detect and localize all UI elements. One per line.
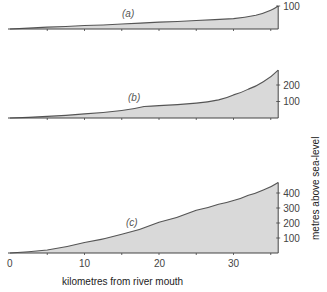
panel-label: (c) — [126, 217, 138, 228]
x-tick-20: 20 — [154, 258, 166, 269]
panel-label: (a) — [122, 8, 134, 19]
x-axis-title: kilometres from river mouth — [62, 276, 183, 287]
panel-label: (b) — [128, 92, 140, 103]
river-profiles-chart: 100(a)100200(b)100200300400(c) 0 10 20 3… — [0, 0, 327, 292]
profile-panel-a: 100(a) — [8, 1, 300, 32]
x-tick-30: 30 — [228, 258, 240, 269]
x-tick-0: 0 — [7, 258, 13, 269]
profile-panel-b: 100200(b) — [8, 70, 300, 120]
profile-area — [10, 183, 278, 254]
y-tick-label: 100 — [283, 233, 300, 244]
y-tick-label: 400 — [283, 188, 300, 199]
y-tick-label: 100 — [283, 1, 300, 12]
y-axis-title: metres above sea-level — [310, 137, 321, 240]
y-tick-label: 100 — [283, 96, 300, 107]
x-tick-10: 10 — [79, 258, 91, 269]
y-tick-label: 200 — [283, 80, 300, 91]
profile-panel-c: 100200300400(c) — [8, 183, 300, 256]
y-tick-label: 300 — [283, 203, 300, 214]
profile-area — [10, 6, 278, 29]
y-tick-label: 200 — [283, 218, 300, 229]
